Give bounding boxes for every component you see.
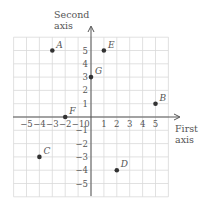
y-tick-label: 2	[83, 85, 88, 95]
coordinate-plane: −5−4−3−2−1012345 54321−1−2−3−4−5 First a…	[0, 0, 205, 205]
point-label: B	[159, 93, 167, 103]
y-axis-title-line1: Second	[54, 9, 89, 20]
x-tick-label: −3	[46, 119, 59, 129]
point-marker-icon	[153, 101, 158, 106]
y-tick-label: 4	[83, 59, 88, 69]
point-marker-icon	[63, 115, 68, 120]
x-tick-labels: −5−4−3−2−1012345	[20, 119, 158, 129]
point-label: D	[120, 159, 128, 169]
point-label: A	[55, 40, 63, 50]
y-tick-label: −3	[75, 152, 88, 162]
point-label: E	[107, 40, 115, 50]
y-tick-label: −2	[75, 139, 88, 149]
y-tick-label: 3	[83, 72, 88, 82]
x-tick-label: 3	[127, 119, 132, 129]
y-tick-label: 5	[83, 46, 88, 56]
y-tick-label: 1	[83, 99, 88, 109]
point-marker-icon	[89, 75, 94, 80]
plotted-points: ABCDEFG	[37, 40, 166, 173]
point-label: C	[43, 146, 50, 156]
point-marker-icon	[102, 48, 107, 53]
point-label: F	[68, 106, 76, 116]
y-tick-label: −1	[75, 125, 88, 135]
point-marker-icon	[115, 168, 120, 173]
point-marker-icon	[37, 155, 42, 160]
x-tick-label: 2	[114, 119, 119, 129]
x-axis-title-line1: First	[175, 123, 198, 134]
point-marker-icon	[50, 48, 55, 53]
point-label: G	[95, 66, 102, 76]
y-tick-label: −4	[75, 165, 88, 175]
x-tick-label: 1	[101, 119, 106, 129]
x-tick-label: −4	[33, 119, 46, 129]
y-axis-title-line2: axis	[54, 20, 73, 31]
x-tick-label: 4	[140, 119, 145, 129]
x-tick-label: −2	[59, 119, 72, 129]
x-tick-label: −5	[20, 119, 33, 129]
x-axis-title-line2: axis	[175, 134, 194, 145]
y-tick-label: −5	[75, 179, 88, 189]
x-tick-label: 5	[153, 119, 158, 129]
